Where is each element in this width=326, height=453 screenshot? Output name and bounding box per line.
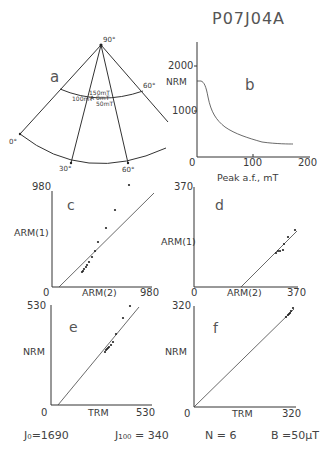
j0-value: J₀=1690 — [24, 429, 69, 442]
arc-tick-60 — [127, 162, 129, 164]
annotation-50mT: 50mT — [96, 100, 113, 107]
origin-label: 0 — [191, 287, 197, 298]
data-point — [283, 243, 285, 245]
x-max-label: 320 — [282, 408, 301, 419]
data-point — [289, 312, 291, 314]
data-point — [279, 250, 281, 252]
tick-0: 0° — [9, 138, 17, 146]
data-point — [97, 241, 99, 243]
data-point — [128, 184, 130, 186]
data-point — [82, 270, 84, 272]
panel-label-f: f — [213, 320, 219, 336]
data-point — [110, 344, 112, 346]
field-value: B =50μT — [271, 429, 319, 442]
panel-d: d 370 ARM(1) 0 ARM(2) 370 — [161, 181, 306, 298]
y-axis-label: NRM — [165, 346, 187, 357]
x-max-label: 530 — [136, 407, 155, 418]
data-point — [285, 316, 287, 318]
panel-label-d: d — [215, 197, 224, 213]
data-point — [115, 333, 117, 335]
x-axis-label: TRM — [87, 407, 109, 418]
tick-90: 90° — [103, 36, 115, 44]
x-axis-label: ARM(2) — [82, 287, 117, 298]
y-tick-label-1000: 1000 — [172, 105, 197, 116]
figure: P07J04A a 90° 60° 0° 30° 60° 150mT A 0mT… — [0, 0, 326, 453]
panel-a: a 90° 60° 0° 30° 60° 150mT A 0mT 100mT 5… — [9, 36, 168, 174]
x-axis-label: ARM(2) — [227, 287, 262, 298]
data-points — [81, 184, 130, 273]
data-point — [114, 209, 116, 211]
origin-label: 0 — [184, 408, 190, 419]
data-point — [294, 229, 296, 231]
arc-tick-30 — [70, 162, 72, 164]
x-axis-label: TRM — [231, 408, 253, 419]
panel-label-e: e — [69, 319, 78, 335]
origin-label: 0 — [41, 407, 47, 418]
data-point — [122, 317, 124, 319]
data-points — [104, 305, 131, 353]
figure-title: P07J04A — [212, 9, 285, 28]
y-axis-label: ARM(1) — [161, 236, 196, 247]
panel-e: e 530 NRM 0 TRM 530 — [23, 300, 155, 418]
panel-label-c: c — [67, 197, 75, 213]
y-tick-label-2000: 2000 — [168, 60, 193, 71]
y-axis-label: NRM — [166, 77, 187, 87]
panel-f: f 320 NRM 0 TRM 320 — [165, 300, 301, 419]
n-value: N = 6 — [205, 429, 236, 442]
outer-arc — [20, 134, 166, 164]
data-point — [94, 250, 96, 252]
tick-60-right: 60° — [143, 82, 155, 90]
data-point — [277, 250, 279, 252]
x-max-label: 980 — [140, 287, 159, 298]
data-point — [275, 252, 277, 254]
fit-line — [194, 309, 294, 407]
data-point — [105, 227, 107, 229]
data-point — [88, 261, 90, 263]
data-point — [282, 249, 284, 251]
data-point — [292, 307, 294, 309]
fit-line — [241, 231, 297, 287]
y-max-label: 320 — [172, 300, 191, 311]
data-point — [85, 266, 87, 268]
data-point — [83, 268, 85, 270]
data-point — [91, 256, 93, 258]
panel-label-b: b — [245, 76, 255, 94]
y-max-label: 370 — [174, 181, 193, 192]
data-points — [275, 229, 296, 254]
tick-30: 30° — [59, 165, 71, 173]
tick-60-bottom: 60° — [122, 166, 134, 174]
data-points — [285, 307, 294, 318]
origin-label: 0 — [43, 287, 49, 298]
panel-c: c 980 ARM(1) 0 ARM(2) 980 — [14, 181, 159, 298]
x-tick-label-0: 0 — [189, 157, 195, 168]
arc-end-point — [19, 133, 21, 135]
sector-edge-right — [101, 45, 168, 122]
x-tick-label-100: 100 — [243, 157, 262, 168]
j100-value: J₁₀₀ = 340 — [115, 429, 169, 442]
data-point — [104, 351, 106, 353]
data-point — [290, 310, 292, 312]
x-axis-label: Peak a.f., mT — [217, 172, 278, 183]
y-max-label: 530 — [27, 300, 46, 311]
data-point — [129, 305, 131, 307]
panel-label-a: a — [50, 68, 59, 86]
data-point — [287, 236, 289, 238]
x-tick-label-200: 200 — [298, 157, 317, 168]
y-max-label: 980 — [32, 181, 51, 192]
data-point — [108, 346, 110, 348]
annotation-100mT: 100mT — [72, 95, 93, 102]
data-point — [112, 341, 114, 343]
panel-b: b 2000 NRM 1000 0 100 200 Peak a.f., mT — [166, 42, 317, 183]
x-max-label: 370 — [287, 287, 306, 298]
y-axis-label: NRM — [23, 346, 45, 357]
y-axis-label: ARM(1) — [14, 227, 49, 238]
data-point — [86, 264, 88, 266]
